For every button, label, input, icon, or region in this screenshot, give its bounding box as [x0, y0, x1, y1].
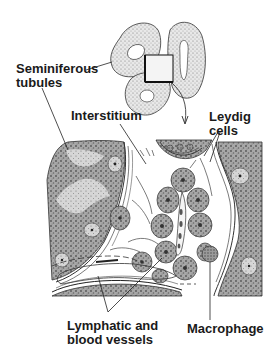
- label-lymphatic-blood-vessels: Lymphatic and blood vessels: [67, 319, 158, 347]
- magnification-box: [145, 55, 173, 82]
- label-seminiferous-line2: tubules: [16, 76, 98, 90]
- label-leydig-cells: Leydig cells: [209, 110, 251, 138]
- label-seminiferous-tubules: Seminiferous tubules: [16, 62, 98, 90]
- histology-section: [47, 140, 262, 296]
- testis-diagram: [0, 0, 277, 357]
- label-interstitium: Interstitium: [71, 109, 142, 123]
- label-macrophage: Macrophage: [187, 322, 264, 336]
- label-lymphatic-line1: Lymphatic and: [67, 319, 158, 333]
- label-lymphatic-line2: blood vessels: [67, 333, 158, 347]
- label-seminiferous-line1: Seminiferous: [16, 62, 98, 76]
- macrophage-cell: [202, 246, 218, 262]
- label-leydig-line2: cells: [209, 124, 251, 138]
- label-leydig-line1: Leydig: [209, 110, 251, 124]
- leader-seminiferous-section: [42, 88, 68, 150]
